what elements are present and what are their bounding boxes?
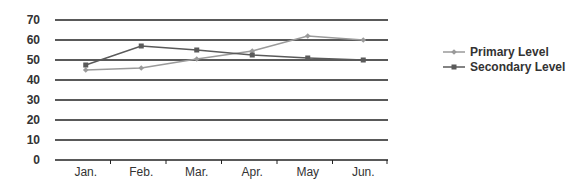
- data-point: [194, 56, 200, 62]
- y-tick-label: 70: [27, 13, 41, 27]
- x-axis: Jan.Feb.Mar.Apr.MayJun.: [74, 160, 387, 179]
- series-lines: [83, 33, 366, 73]
- x-tick-label: May: [296, 165, 319, 179]
- data-point: [83, 67, 89, 73]
- x-tick-label: Apr.: [242, 165, 263, 179]
- y-tick-label: 50: [27, 53, 41, 67]
- secondary-line-marker-icon: [442, 62, 466, 72]
- y-tick-label: 30: [27, 93, 41, 107]
- y-tick-label: 10: [27, 133, 41, 147]
- gridlines: [55, 20, 388, 160]
- data-point: [305, 33, 311, 39]
- data-point: [194, 48, 199, 53]
- x-tick-label: Jan.: [74, 165, 97, 179]
- data-point: [83, 63, 88, 68]
- legend-label-primary: Primary Level: [470, 45, 549, 59]
- x-tick-label: Jun.: [352, 165, 375, 179]
- y-tick-label: 40: [27, 73, 41, 87]
- y-tick-label: 20: [27, 113, 41, 127]
- y-tick-label: 0: [33, 153, 40, 167]
- legend: Primary Level Secondary Level: [442, 44, 565, 74]
- legend-item-secondary: Secondary Level: [442, 59, 565, 74]
- primary-line-marker-icon: [442, 47, 466, 57]
- data-point: [360, 37, 366, 43]
- data-point: [138, 65, 144, 71]
- x-tick-label: Feb.: [129, 165, 153, 179]
- x-tick-label: Mar.: [185, 165, 208, 179]
- data-point: [139, 44, 144, 49]
- legend-item-primary: Primary Level: [442, 44, 565, 59]
- y-axis-labels: 010203040506070: [27, 13, 41, 167]
- data-point: [361, 58, 366, 63]
- line-chart: 010203040506070 Jan.Feb.Mar.Apr.MayJun.: [0, 0, 579, 187]
- legend-label-secondary: Secondary Level: [470, 60, 565, 74]
- data-point: [305, 56, 310, 61]
- y-tick-label: 60: [27, 33, 41, 47]
- data-point: [250, 53, 255, 58]
